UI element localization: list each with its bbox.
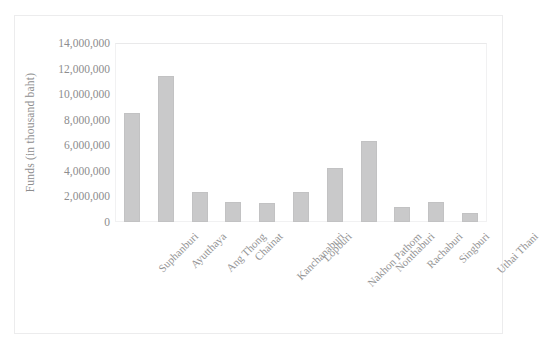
y-axis-tick-label: 10,000,000 — [38, 88, 110, 100]
y-axis-tick-label: 12,000,000 — [38, 63, 110, 75]
bar — [259, 203, 275, 222]
y-axis-tick-label: 8,000,000 — [38, 114, 110, 126]
y-axis-tick-label: 2,000,000 — [38, 190, 110, 202]
x-axis-category-labels: SuphanburiAyutthayaAng ThongChainatKanch… — [115, 222, 487, 332]
x-axis-category-label: Uthai Thani — [495, 230, 540, 276]
y-axis-tick-label: 0 — [38, 216, 110, 228]
bar — [361, 141, 377, 222]
bar — [293, 192, 309, 222]
y-axis-tick-label: 4,000,000 — [38, 165, 110, 177]
y-axis-tick-label: 6,000,000 — [38, 139, 110, 151]
y-axis-tick-label: 14,000,000 — [38, 37, 110, 49]
bar — [192, 192, 208, 222]
y-axis-title: Funds (in thousand baht) — [22, 43, 38, 222]
bar — [158, 76, 174, 222]
bar — [225, 202, 241, 222]
bar — [462, 213, 478, 222]
bar — [327, 168, 343, 222]
bar — [428, 202, 444, 222]
bar — [124, 113, 140, 222]
bar — [394, 207, 410, 222]
y-axis-tick-labels: 14,000,00012,000,00010,000,0008,000,0006… — [38, 0, 110, 353]
bars-layer — [115, 43, 487, 222]
